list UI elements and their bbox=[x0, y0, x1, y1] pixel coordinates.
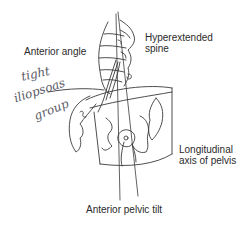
iliopsoas-muscle-lines bbox=[98, 60, 120, 112]
pelvic-bone-outline bbox=[69, 96, 163, 166]
pelvis-cylinder bbox=[86, 87, 172, 166]
vertical-axis-line bbox=[116, 14, 120, 200]
label-anterior-pelvic-tilt: Anterior pelvic tilt bbox=[86, 204, 162, 215]
label-longitudinal-axis-of-pelvis: Longitudinal axis of pelvis bbox=[179, 144, 236, 166]
tilted-axis-line bbox=[118, 12, 138, 196]
anterior-pelvic-tilt-diagram: Anterior angle Hyperextended spine Longi… bbox=[0, 0, 246, 227]
label-anterior-angle: Anterior angle bbox=[24, 46, 86, 57]
label-hyperextended-spine: Hyperextended spine bbox=[145, 32, 213, 54]
